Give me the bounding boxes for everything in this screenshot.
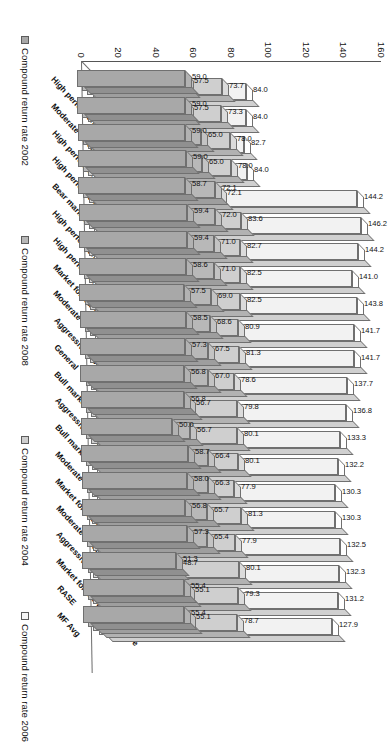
bar-value-label: 137.7 [354, 380, 373, 388]
y-axis-tick: 0 [76, 53, 86, 58]
bar-face-side [89, 542, 200, 549]
y-axis-tick: 120 [301, 42, 311, 58]
bar-value-label: 82.7 [251, 139, 266, 147]
bar-value-label: 141.7 [361, 354, 380, 362]
bar-face-side [85, 194, 199, 201]
bar-face-front [83, 606, 184, 623]
bar-face-front [79, 284, 184, 301]
bar-segment [82, 499, 186, 516]
bar-value-label: 84.0 [253, 113, 268, 121]
bar-segment [80, 311, 187, 328]
bar-value-label: 79.3 [245, 590, 260, 598]
bar-value-label: 132.3 [346, 568, 365, 576]
bar-value-label: 66.3 [215, 479, 230, 487]
bar-value-label: 57.3 [192, 341, 207, 349]
bar-value-label: 58.7 [195, 448, 210, 456]
bar-face-front [77, 70, 185, 87]
bar-value-label: 73.7 [229, 82, 244, 90]
bar-value-label: 144.2 [364, 193, 383, 201]
bar-face-front [80, 365, 184, 382]
bar-value-label: 56.8 [191, 368, 206, 376]
bar-face-side [89, 516, 199, 523]
bar-value-label: 55.4 [191, 582, 206, 590]
legend-item[interactable]: Compound return rate 2004 [20, 436, 31, 566]
bar-value-label: 57.5 [191, 287, 206, 295]
legend-label: Compound return rate 2008 [20, 248, 31, 366]
bar-value-label: 136.8 [353, 407, 372, 415]
bar-face-side [88, 408, 198, 415]
bar-value-label: 141.0 [359, 273, 378, 281]
bar-value-label: 58.0 [194, 475, 209, 483]
bar-face-side [88, 462, 202, 469]
bar-segment [78, 177, 185, 194]
bar-face-side [84, 114, 198, 121]
bar-segment [79, 284, 184, 301]
chart-legend: Compound return rate 2002Compound return… [1, 0, 45, 751]
legend-label: Compound return rate 2004 [20, 448, 31, 566]
bar-face-front [78, 177, 185, 194]
bar-segment [81, 418, 172, 435]
bar-value-label: 68.6 [217, 318, 232, 326]
value-axis-line [81, 61, 381, 62]
bar-face-front [82, 525, 187, 542]
bar-segment [83, 579, 184, 596]
bar-value-label: 71.0 [221, 238, 236, 246]
bar-face-front [79, 258, 186, 275]
bar-value-label: 59.4 [194, 207, 209, 215]
bar-face-front [77, 97, 185, 114]
bar-face-side [86, 275, 200, 282]
bar-segment [81, 391, 185, 408]
bar-segment [83, 606, 184, 623]
bar-value-label: 56.8 [192, 502, 207, 510]
bar-value-label: 80.1 [245, 457, 260, 465]
bar-value-label: 67.0 [215, 372, 230, 380]
bar-value-label: 79.8 [244, 403, 259, 411]
legend-item[interactable]: Compound return rate 2002 [20, 36, 31, 166]
bar-value-label: 67.5 [215, 345, 230, 353]
y-axis-tick: 80 [226, 47, 236, 58]
bar-value-label: 65.0 [209, 158, 224, 166]
bar-value-label: 77.9 [241, 483, 256, 491]
plot-area: 84.073.757.559.084.073.357.559.082.778.0… [69, 64, 381, 664]
bar-value-label: 78.6 [241, 376, 256, 384]
bar-value-label: 59.4 [194, 234, 209, 242]
y-axis-tick: 60 [189, 47, 199, 58]
y-axis-tick: 100 [264, 42, 274, 58]
bar-face-side [86, 221, 201, 228]
bar-face-front [81, 445, 188, 462]
bar-value-label: 56.8 [191, 395, 206, 403]
bar-value-label: 50.0 [179, 421, 194, 429]
legend-item[interactable]: Compound return rate 2006 [20, 612, 31, 742]
bar-value-label: 73.3 [228, 108, 243, 116]
bar-value-label: 80.1 [246, 564, 261, 572]
bar-face-side [89, 489, 202, 496]
bar-value-label: 65.4 [214, 533, 229, 541]
bar-face-side [85, 167, 199, 174]
bar-value-label: 66.4 [215, 452, 230, 460]
legend-item[interactable]: Compound return rate 2008 [20, 236, 31, 366]
bar-face-front [80, 311, 187, 328]
bar-value-label: 78.7 [244, 617, 259, 625]
bar-value-label: 81.3 [248, 510, 263, 518]
bar-value-label: 55.4 [191, 609, 206, 617]
bar-value-label: 77.9 [242, 537, 257, 545]
bar-segment [79, 258, 186, 275]
bar-value-label: 59.0 [193, 153, 208, 161]
bar-face-side [90, 596, 198, 603]
bar-value-label: 80.1 [244, 430, 259, 438]
bar-value-label: 144.2 [365, 246, 384, 254]
legend-swatch [22, 236, 30, 244]
legend-label: Compound return rate 2002 [20, 48, 31, 166]
bar-face-front [81, 391, 185, 408]
bar-value-label: 130.3 [342, 488, 361, 496]
bar-face-front [79, 204, 187, 221]
bar-value-label: 132.5 [347, 541, 366, 549]
bar-value-label: 58.5 [193, 314, 208, 322]
bar-face-front [83, 579, 184, 596]
bar-value-label: 58.7 [192, 180, 207, 188]
bar-face-front [82, 472, 188, 489]
bar-value-label: 131.2 [345, 595, 364, 603]
bar-face-side [87, 328, 201, 335]
bar-face-side [86, 301, 198, 308]
bar-value-label: 82.7 [247, 242, 262, 250]
